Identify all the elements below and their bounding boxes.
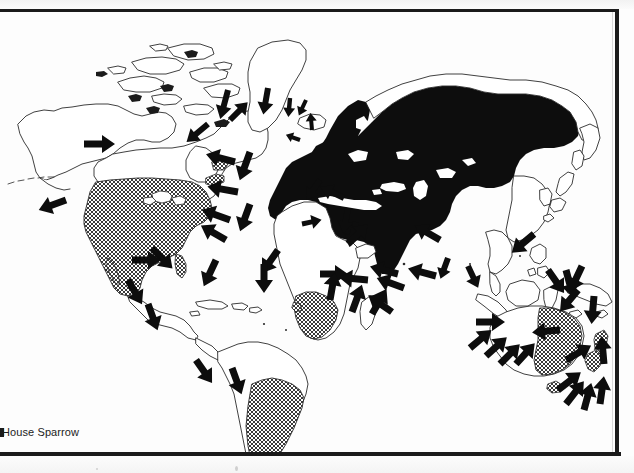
borneo-outline [506,280,540,306]
japan-outline [544,214,554,222]
scan-page: House Sparrow [0,0,634,473]
new-zealand-south-range [585,350,602,372]
figure-caption: House Sparrow [2,426,79,439]
japan-outline [550,198,566,212]
alaska-peninsula [40,178,70,190]
arctic-island [118,76,164,92]
arctic-island [132,57,184,74]
scan-shading-bottom [0,456,634,473]
spread-arrow [189,355,220,388]
japan-outline [556,172,574,196]
caribbean-island [250,307,262,313]
arctic-island [152,94,182,105]
arctic-island-filled [96,71,108,77]
island-dot [263,323,265,325]
mexico-outline [128,296,198,340]
philippines-outline [528,268,536,276]
island-dot [105,269,107,271]
arctic-island-filled [146,106,160,114]
china-east-outline [506,176,550,242]
island-dot [403,263,406,266]
korea-outline [540,188,552,206]
spread-arrow [591,375,613,405]
spread-arrow [36,192,69,219]
arctic-island [108,66,126,74]
philippines-outline [530,244,546,264]
island-dot [285,329,287,331]
arctic-island [184,104,214,115]
arctic-island-filled [128,94,142,102]
sakhalin-outline [572,150,584,170]
caribbean-island [232,303,248,310]
spread-arrow [406,260,439,285]
distribution-map [0,12,615,452]
spread-arrow [434,256,455,281]
florida [175,254,186,278]
united-states-range [84,178,212,296]
frame-rule-bottom [0,452,621,456]
scan-speck [235,466,238,471]
island-dot [469,263,471,265]
caribbean-island [196,300,228,309]
malay-peninsula-outline [490,272,500,296]
horn-of-africa-outline [356,244,376,258]
spread-arrow [461,263,486,292]
spread-arrow [196,256,225,290]
scan-shading-top [0,0,634,9]
greenland-outline [248,40,306,132]
caribbean-island [190,311,200,316]
arctic-island [204,84,240,98]
arctic-island [150,44,168,51]
spread-arrow [232,201,259,234]
frame-rule-right [615,9,619,456]
south-america-introduced-range [246,378,304,452]
scan-speck [96,468,98,470]
island-dot [519,255,521,257]
spread-arrow [284,130,302,145]
